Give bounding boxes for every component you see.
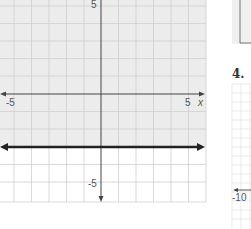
inequality-graph: 5 -5 5 x -5 4. -10	[0, 0, 251, 229]
y-tick-neg5: -5	[88, 178, 97, 189]
shaded-region	[0, 0, 206, 147]
next-x-tick-neg10: -10	[232, 192, 247, 203]
next-problem-grid	[232, 84, 251, 229]
problem-number: 4.	[232, 67, 245, 81]
x-tick-5: 5	[185, 97, 191, 108]
x-tick-neg5: -5	[6, 97, 15, 108]
previous-answer-box	[232, 0, 251, 44]
x-axis-label: x	[197, 97, 204, 108]
y-tick-5: 5	[91, 0, 97, 10]
